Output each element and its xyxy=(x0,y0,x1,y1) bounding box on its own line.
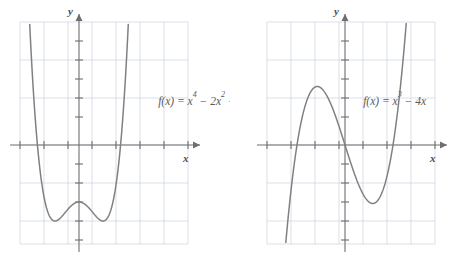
equation-lhs: f(x) = x xyxy=(158,95,193,108)
equation-label: f(x) = x3 − 4x xyxy=(343,90,440,109)
y-axis-arrowhead xyxy=(342,14,349,21)
y-axis xyxy=(341,14,349,252)
x-axis-label: x xyxy=(182,152,189,164)
x-axis-label: x xyxy=(429,152,436,164)
x-axis-arrowhead xyxy=(193,142,200,149)
equation-mid: − 4x xyxy=(402,95,427,107)
y-axis-label: y xyxy=(66,5,73,17)
x-axis xyxy=(10,141,200,149)
equation-label: f(x) = x4 − 2x2 − 3 xyxy=(138,90,230,109)
grid-horizontal-lines xyxy=(267,22,435,244)
cubic-figure: x y f(x) = x3 − 4x xyxy=(230,0,460,262)
equation-mid: − 2x xyxy=(197,95,222,107)
y-axis xyxy=(75,14,83,252)
x-axis xyxy=(257,141,447,149)
x-axis-arrowhead xyxy=(440,142,447,149)
y-axis-label: y xyxy=(332,5,339,17)
grid-horizontal-lines xyxy=(20,22,188,244)
cubic-plot-svg: x y f(x) = x3 − 4x xyxy=(230,0,460,262)
grid-vertical-lines xyxy=(20,22,188,244)
quartic-plot-svg: x y f(x) = x4 − 2x2 − 3 xyxy=(0,0,230,262)
grid-vertical-lines xyxy=(267,22,435,244)
equation-lhs: f(x) = x xyxy=(363,95,398,108)
cubic-curve xyxy=(286,23,406,242)
quartic-figure: x y f(x) = x4 − 2x2 − 3 xyxy=(0,0,230,262)
y-axis-arrowhead xyxy=(76,14,83,21)
